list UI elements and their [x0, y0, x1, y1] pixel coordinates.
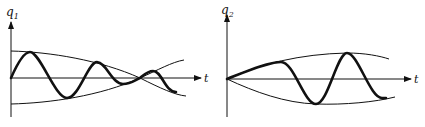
q1-x-label: t — [204, 72, 209, 85]
q2-y-label: q2 — [221, 3, 234, 19]
q1-oscillation-curve — [11, 52, 176, 98]
figure: q1 t q2 t — [0, 0, 425, 127]
q1-y-label: q1 — [6, 5, 19, 21]
q2-x-label: t — [414, 73, 419, 86]
q1-lower-envelope — [11, 60, 184, 104]
q2-panel: q2 t — [221, 3, 419, 117]
q1-panel: q1 t — [6, 5, 209, 117]
